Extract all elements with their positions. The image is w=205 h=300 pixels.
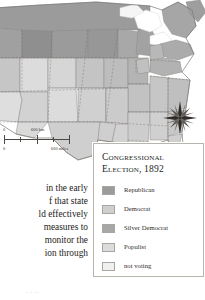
legend-item-list: Republican Democrat Silver Democrat Popu… [102, 181, 197, 276]
body-text-line-4: measures to [0, 221, 88, 234]
legend-swatch-democrat [102, 205, 115, 214]
legend-swatch-silver-democrat [102, 224, 115, 233]
legend-item-republican: Republican [102, 181, 197, 200]
legend-label-populist: Populist [124, 244, 146, 251]
legend-label-republican: Republican [124, 187, 155, 194]
body-text-column: in the early f that state ld effectively… [0, 182, 88, 272]
bottom-caption-text: · · ·· [0, 289, 205, 298]
legend-label-not-voting: not voting [124, 263, 151, 270]
legend-title: Congressional Election, 1892 [102, 151, 197, 174]
scale-bar-graphic [4, 135, 70, 144]
body-text-line-1: in the early [0, 182, 88, 195]
figure-page: 0 600 km 0 600 miles Congressional Elect… [0, 0, 205, 300]
legend-label-democrat: Democrat [124, 206, 150, 213]
scale-miles-max-label: 600 miles [51, 147, 68, 151]
legend-item-populist: Populist [102, 238, 197, 257]
map-scale-bar: 0 600 km 0 600 miles [3, 128, 79, 154]
legend-item-silver-democrat: Silver Democrat [102, 219, 197, 238]
bottom-clipped-caption: · · ·· [0, 289, 205, 300]
legend-item-democrat: Democrat [102, 200, 197, 219]
legend-item-not-voting: not voting [102, 257, 197, 276]
scale-km-zero-label: 0 [3, 128, 5, 132]
scale-miles-zero-label: 0 [3, 147, 5, 151]
legend-title-line-2: Election, 1892 [102, 163, 197, 175]
legend-swatch-republican [102, 186, 115, 195]
legend-title-line-1: Congressional [102, 151, 197, 163]
body-text-line-6: ion through [0, 247, 88, 260]
map-legend: Congressional Election, 1892 Republican … [93, 143, 204, 277]
legend-swatch-populist [102, 243, 115, 252]
body-text-line-3: ld effectively [0, 208, 88, 221]
body-text-line-5: monitor the [0, 234, 88, 247]
legend-swatch-not-voting [102, 262, 115, 271]
legend-label-silver-democrat: Silver Democrat [124, 225, 168, 232]
body-text-line-2: f that state [0, 195, 88, 208]
scale-km-max-label: 600 km [31, 128, 44, 132]
